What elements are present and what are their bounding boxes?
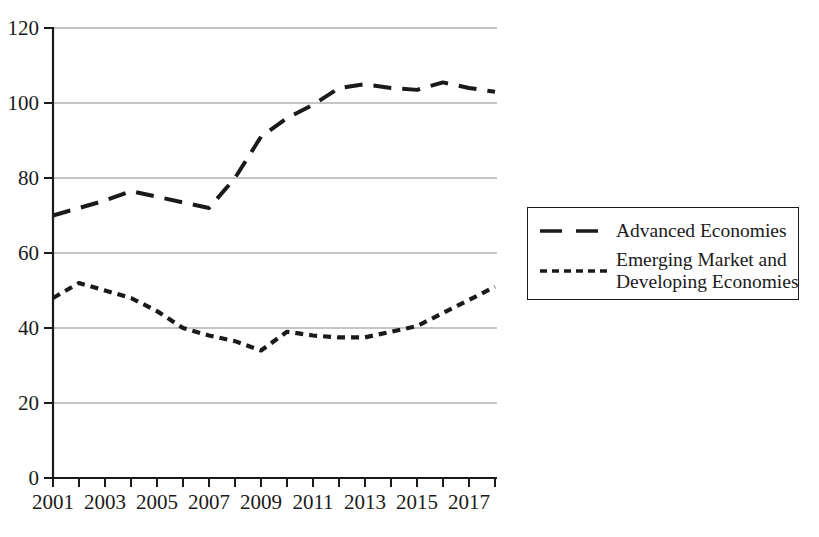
x-tick-label: 2009 bbox=[240, 490, 282, 514]
legend-label-advanced-economies: Advanced Economies bbox=[612, 220, 787, 242]
y-tick-label: 20 bbox=[18, 391, 39, 415]
legend-label-emerging-market-line1: Emerging Market and bbox=[616, 249, 787, 270]
x-axis-tick-labels: 200120032005200720092011201320152017 bbox=[32, 490, 490, 514]
series-line-emerging-market bbox=[53, 283, 495, 351]
legend-label-emerging-market: Emerging Market and Developing Economies bbox=[612, 249, 799, 293]
x-tick-label: 2003 bbox=[84, 490, 126, 514]
series-line-advanced-economies bbox=[53, 82, 495, 215]
x-tick-label: 2013 bbox=[344, 490, 386, 514]
short-dash-line-icon bbox=[538, 264, 612, 278]
x-tick-label: 2015 bbox=[396, 490, 438, 514]
x-tick-label: 2011 bbox=[292, 490, 333, 514]
legend-item-advanced-economies: Advanced Economies bbox=[538, 216, 787, 246]
x-tick-label: 2007 bbox=[188, 490, 230, 514]
x-axis-ticks bbox=[53, 478, 495, 487]
data-series bbox=[53, 82, 495, 350]
x-tick-label: 2005 bbox=[136, 490, 178, 514]
y-tick-label: 0 bbox=[29, 466, 40, 490]
legend-label-emerging-market-line2: Developing Economies bbox=[616, 271, 799, 293]
y-tick-label: 60 bbox=[18, 241, 39, 265]
long-dash-line-icon bbox=[538, 224, 612, 238]
x-tick-label: 2001 bbox=[32, 490, 74, 514]
line-chart: 020406080100120 200120032005200720092011… bbox=[0, 0, 819, 537]
y-axis-ticks bbox=[44, 28, 53, 478]
y-tick-label: 80 bbox=[18, 166, 39, 190]
y-tick-label: 100 bbox=[8, 91, 40, 115]
y-axis-tick-labels: 020406080100120 bbox=[8, 16, 40, 490]
legend-item-emerging-market: Emerging Market and Developing Economies bbox=[538, 248, 799, 294]
x-tick-label: 2017 bbox=[448, 490, 490, 514]
y-tick-label: 120 bbox=[8, 16, 40, 40]
legend: Advanced Economies Emerging Market and D… bbox=[527, 207, 799, 300]
y-tick-label: 40 bbox=[18, 316, 39, 340]
